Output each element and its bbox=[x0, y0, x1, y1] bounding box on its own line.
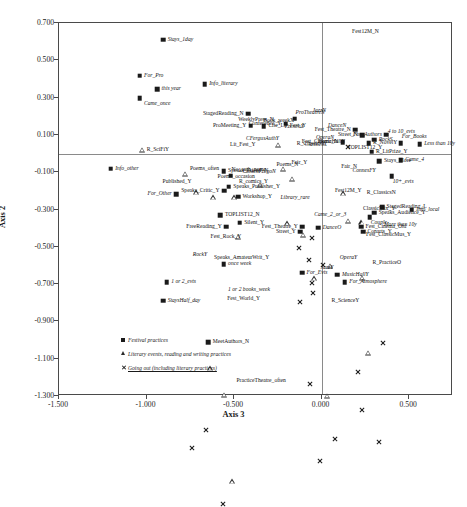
data-point-label: For_Authors bbox=[353, 132, 382, 138]
data-point-marker bbox=[224, 224, 229, 229]
data-point-label: R_comics_Y bbox=[239, 180, 268, 186]
data-point-label: ClassicsX bbox=[305, 142, 327, 148]
x-tick-mark bbox=[146, 395, 147, 399]
y-tick-label: -0.900 bbox=[14, 316, 54, 325]
data-point-marker bbox=[296, 245, 302, 251]
data-point-marker bbox=[237, 220, 242, 225]
data-point-marker bbox=[300, 270, 305, 275]
data-point-marker bbox=[399, 141, 404, 146]
data-point-marker bbox=[289, 176, 295, 181]
data-point-label: MusicHallY bbox=[342, 272, 369, 278]
data-point-label: Speaks_AmateurWrit_Y bbox=[214, 256, 269, 262]
data-point-label: Fest_ClassicMus_Y bbox=[366, 232, 411, 238]
data-point-marker bbox=[310, 290, 316, 296]
data-point-marker bbox=[355, 369, 361, 375]
data-point-label: R_ClassicsN bbox=[367, 190, 396, 196]
data-point-label: Info_other bbox=[115, 166, 139, 172]
data-point-marker bbox=[307, 381, 313, 387]
data-point-label: RockS bbox=[379, 137, 393, 143]
legend-marker-square-icon bbox=[121, 337, 128, 342]
x-tick-mark bbox=[408, 395, 409, 399]
data-point-marker bbox=[164, 280, 169, 285]
data-point-label: For_Other bbox=[148, 191, 172, 197]
figure-caption bbox=[14, 418, 454, 430]
data-point-label: RockY bbox=[193, 252, 207, 258]
legend-marker-triangle-icon bbox=[121, 351, 128, 356]
data-point-label: Speaks_Critic_Y bbox=[181, 188, 219, 194]
y-tick-label: -1.300 bbox=[14, 391, 54, 400]
data-point-label: Less than 10y bbox=[424, 141, 455, 147]
data-point-marker bbox=[342, 280, 347, 285]
data-point-marker bbox=[189, 445, 195, 451]
y-axis-title: Axis 2 bbox=[0, 206, 7, 228]
data-point-label: DanceO bbox=[323, 225, 342, 231]
data-point-marker bbox=[222, 189, 227, 194]
data-point-label: Fest12M_Y bbox=[335, 188, 362, 194]
data-point-label: 4 to 10_evts bbox=[388, 129, 415, 135]
data-point-marker bbox=[376, 439, 382, 445]
legend-label: Literary events, reading and writing pra… bbox=[128, 351, 231, 358]
legend-label: Festival practices bbox=[128, 337, 168, 344]
data-point-marker bbox=[108, 167, 113, 172]
data-point-marker bbox=[297, 299, 303, 305]
y-tick-label: -0.100 bbox=[14, 167, 54, 176]
data-point-label: ContenFregoN bbox=[242, 169, 275, 175]
data-point-label: TOPLIST12_N bbox=[225, 213, 260, 219]
data-point-marker bbox=[137, 73, 142, 78]
data-point-marker bbox=[380, 340, 386, 346]
data-point-label: R_ScienceY bbox=[331, 298, 359, 304]
data-point-marker bbox=[417, 142, 422, 147]
legend-item: Literary events, reading and writing pra… bbox=[121, 351, 241, 358]
data-point-marker bbox=[309, 280, 315, 286]
legend-label: Going out (including literary practices) bbox=[128, 365, 217, 372]
data-point-marker bbox=[309, 235, 315, 241]
data-point-marker bbox=[361, 230, 366, 235]
data-point-label: Lit_Fest_Y bbox=[230, 142, 255, 148]
x-tick-label: 0.500 bbox=[399, 400, 417, 409]
data-point-label: ProMeeting_Y bbox=[213, 123, 246, 129]
chart-legend: Festival practicesLiterary events, readi… bbox=[121, 337, 241, 379]
data-point-marker bbox=[220, 501, 226, 507]
data-point-label: R_PracticeO bbox=[373, 260, 402, 266]
data-point-marker bbox=[275, 142, 281, 147]
y-tick-label: 0.300 bbox=[14, 92, 54, 101]
data-point-marker bbox=[174, 192, 179, 197]
data-point-label: Poems_often bbox=[190, 166, 219, 172]
vertical-zero-axis bbox=[322, 23, 323, 394]
y-tick-label: -0.500 bbox=[14, 241, 54, 250]
data-point-label: Fest12M_N bbox=[352, 30, 379, 36]
data-point-marker bbox=[317, 458, 323, 464]
data-point-label: Library_rare bbox=[280, 195, 309, 201]
y-tick-mark bbox=[54, 358, 58, 359]
data-point-marker bbox=[210, 195, 216, 200]
data-point-marker bbox=[221, 262, 226, 267]
data-point-label: Fest_World_Y bbox=[227, 297, 260, 303]
data-point-label: Info_local bbox=[416, 207, 439, 213]
data-point-label: 1 or 2 books_week bbox=[228, 287, 270, 293]
data-point-label: 1 or 2_evts bbox=[171, 279, 196, 285]
data-point-label: 10+_evts bbox=[393, 179, 414, 185]
data-point-label: DanceN bbox=[328, 123, 346, 129]
y-tick-mark bbox=[54, 134, 58, 135]
data-point-label: Came_once bbox=[144, 101, 170, 107]
y-tick-mark bbox=[54, 209, 58, 210]
data-point-marker bbox=[365, 350, 371, 355]
data-point-label: PracticeTheatre_often bbox=[237, 379, 286, 385]
data-point-label: Poems_N bbox=[276, 162, 298, 168]
data-point-marker bbox=[324, 393, 330, 398]
x-tick-label: -1.500 bbox=[48, 400, 68, 409]
data-point-marker bbox=[227, 184, 232, 189]
data-point-label: Stays_1day bbox=[168, 37, 193, 43]
x-tick-label: -1.000 bbox=[135, 400, 155, 409]
data-point-label: Workshop_Y bbox=[242, 194, 272, 200]
y-tick-mark bbox=[54, 283, 58, 284]
data-point-marker bbox=[137, 96, 142, 101]
y-tick-label: 0.700 bbox=[14, 18, 54, 27]
y-tick-mark bbox=[54, 171, 58, 172]
data-point-marker bbox=[359, 219, 365, 224]
data-point-label: JazzN bbox=[313, 108, 326, 114]
x-tick-label: -0.500 bbox=[223, 400, 243, 409]
legend-item: Festival practices bbox=[121, 337, 241, 344]
data-point-label: For_Atmosphere bbox=[349, 279, 387, 285]
